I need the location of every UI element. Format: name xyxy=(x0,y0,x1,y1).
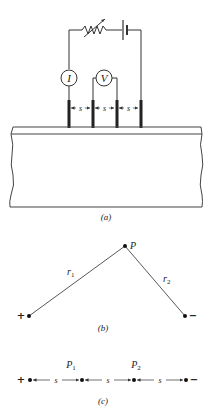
spacing-label: s xyxy=(54,376,57,385)
four-point-probe-figure: I V s s s xyxy=(0,0,213,416)
probe-2 xyxy=(92,100,95,128)
caption-a: (a) xyxy=(101,212,112,222)
label-p1: P1 xyxy=(65,359,76,372)
probe-1 xyxy=(68,100,71,128)
spacing-label: s xyxy=(103,104,106,113)
variable-resistor-icon xyxy=(82,19,112,37)
plus-sign: + xyxy=(17,310,25,321)
label-r2: r2 xyxy=(163,273,171,286)
battery-icon xyxy=(123,20,127,40)
label-p2: P2 xyxy=(130,359,141,372)
sample-block xyxy=(10,127,203,207)
label-r1: r1 xyxy=(67,266,75,279)
minus-sign: − xyxy=(189,310,197,321)
panel-a-circuit: I V s s s xyxy=(10,19,203,222)
probe-3 xyxy=(116,100,119,128)
source-minus-point xyxy=(183,314,187,318)
source-plus-point xyxy=(27,314,31,318)
panel-b-geometry: P r1 r2 + − (b) xyxy=(17,240,197,333)
minus-electrode-point xyxy=(184,378,188,382)
point-p1 xyxy=(80,378,84,382)
probe-4 xyxy=(140,100,143,128)
spacing-label: s xyxy=(79,104,82,113)
spacing-dimensions-c: s s s xyxy=(33,376,183,385)
minus-sign: − xyxy=(190,374,198,385)
plus-electrode-point xyxy=(28,378,32,382)
spacing-label: s xyxy=(127,104,130,113)
ammeter-icon: I xyxy=(61,70,77,86)
label-p: P xyxy=(129,240,136,251)
probe-spacing-dimensions: s s s xyxy=(71,104,138,113)
spacing-label: s xyxy=(158,376,161,385)
point-p xyxy=(123,244,127,248)
caption-c: (c) xyxy=(98,396,108,406)
panel-c-collinear: P1 P2 + − s s s (c) xyxy=(17,359,198,406)
spacing-label: s xyxy=(106,376,109,385)
point-p2 xyxy=(132,378,136,382)
voltmeter-icon: V xyxy=(93,70,117,100)
caption-b: (b) xyxy=(98,323,109,333)
plus-sign: + xyxy=(17,374,25,385)
